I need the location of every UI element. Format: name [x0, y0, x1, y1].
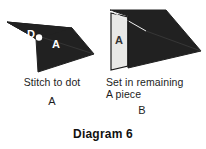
stitched-unit-a-svg: D A [6, 10, 102, 72]
stitch-dot [36, 34, 42, 40]
piece-label-a: A [115, 34, 123, 46]
caption-step-b-line2: A piece [106, 88, 206, 100]
piece-label-a: A [52, 38, 60, 50]
dot-label-d: D [27, 28, 35, 40]
shape-b-container: A [104, 4, 204, 74]
set-in-unit-b-svg: A [104, 4, 204, 74]
caption-step-a-line1: Stitch to dot [4, 76, 100, 88]
caption-step-a: Stitch to dot [4, 76, 100, 88]
shape-a-container: D A [6, 10, 102, 72]
caption-step-b-line1: Set in remaining [106, 76, 206, 88]
diagram-figure: D A A Stitch to dot A Set in remaining A… [0, 0, 206, 149]
diagram-caption: Diagram 6 [0, 127, 206, 141]
part-letter-a: A [4, 95, 100, 107]
part-letter-b: B [106, 104, 178, 116]
caption-step-b: Set in remaining A piece [106, 76, 206, 100]
